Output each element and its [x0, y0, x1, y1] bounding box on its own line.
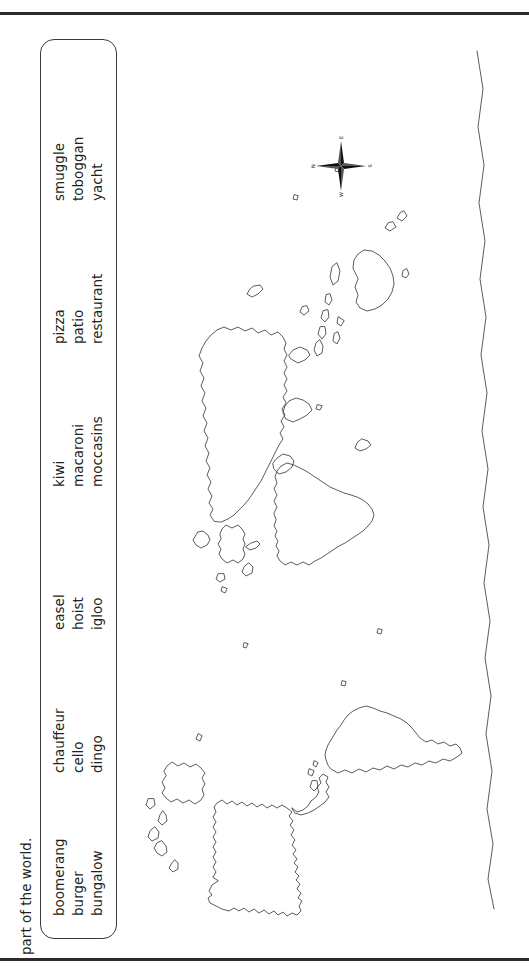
word-item: burger [69, 773, 88, 916]
word-group: easel hoist igloo [50, 487, 107, 630]
word-item: restaurant [88, 201, 107, 344]
word-item: yacht [88, 58, 107, 201]
compass-label-east: E [338, 135, 344, 138]
compass-label-north: N [310, 163, 316, 167]
word-item: patio [69, 201, 88, 344]
word-item: moccasins [88, 344, 107, 487]
word-item: chauffeur [50, 630, 69, 773]
word-group: chauffeur cello dingo [50, 630, 107, 773]
compass-label-south: S [366, 164, 372, 167]
worksheet-content: part of the world. boomerang burger bung… [18, 17, 512, 957]
word-item: boomerang [50, 773, 69, 916]
word-item: cello [69, 630, 88, 773]
word-item: macaroni [69, 344, 88, 487]
word-bank-columns: boomerang burger bungalow chauffeur cell… [41, 40, 116, 938]
word-bank-box: boomerang burger bungalow chauffeur cell… [40, 39, 117, 939]
word-item: easel [50, 487, 69, 630]
word-item: igloo [88, 487, 107, 630]
page-trim-line-bottom [0, 958, 529, 961]
word-group: boomerang burger bungalow [50, 773, 107, 916]
word-item: dingo [88, 630, 107, 773]
compass-label-west: W [338, 191, 344, 196]
word-group: smuggle toboggan yacht [50, 58, 107, 201]
instruction-text: part of the world. [18, 837, 34, 954]
compass-star [316, 141, 366, 191]
word-item: toboggan [69, 58, 88, 201]
word-item: smuggle [50, 58, 69, 201]
word-item: pizza [50, 201, 69, 344]
word-group: pizza patio restaurant [50, 201, 107, 344]
word-item: bungalow [88, 773, 107, 916]
worksheet-page: part of the world. boomerang burger bung… [0, 0, 529, 973]
word-item: kiwi [50, 344, 69, 487]
word-item: hoist [69, 487, 88, 630]
compass-rose: N E S W [310, 135, 372, 197]
page-trim-line-top [0, 12, 529, 15]
word-group: kiwi macaroni moccasins [50, 344, 107, 487]
